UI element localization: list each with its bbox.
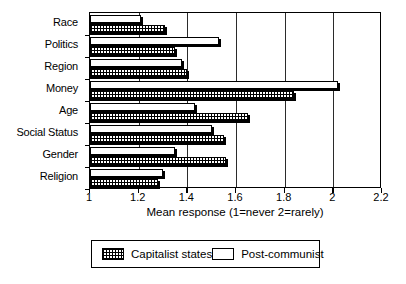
legend-item-capitalist-states: Capitalist states [102,248,212,261]
bar-group [90,123,380,145]
bar-group [90,101,380,123]
bar-group [90,57,380,79]
bar-post-communist [90,169,163,177]
x-axis-tick-label: 2.2 [373,191,388,204]
bar-post-communist [90,81,338,89]
y-axis-category-labels: RacePoliticsRegionMoneyAgeSocial StatusG… [0,12,84,188]
x-axis-tick-label: 1.8 [276,191,291,204]
bar-capitalist-states [90,25,165,33]
bar-capitalist-states [90,69,187,77]
y-axis-label-region: Region [0,61,78,72]
bar-capitalist-states [90,113,248,121]
bar-post-communist [90,59,182,67]
bar-group [90,167,380,189]
bar-chart: RacePoliticsRegionMoneyAgeSocial StatusG… [0,0,406,284]
bar-post-communist [90,15,141,23]
bar-capitalist-states [90,91,294,99]
bar-group [90,145,380,167]
legend-swatch-cross-hatch-icon [102,248,124,260]
legend-swatch-white-icon [212,248,234,260]
plot-area [89,12,381,188]
y-axis-label-gender: Gender [0,149,78,160]
x-axis-tick-label: 1.4 [179,191,194,204]
y-axis-label-race: Race [0,17,78,28]
legend-label-capitalist-states: Capitalist states [131,248,212,261]
bar-capitalist-states [90,179,158,187]
y-axis-label-age: Age [0,105,78,116]
bar-post-communist [90,103,195,111]
x-axis-tick-label: 2 [329,191,335,204]
chart-legend: Capitalist states Post-communist [91,240,320,268]
bar-group [90,13,380,35]
bar-capitalist-states [90,157,226,165]
x-axis-tick-label: 1.2 [130,191,145,204]
bar-post-communist [90,125,212,133]
bar-capitalist-states [90,47,175,55]
bar-capitalist-states [90,135,224,143]
legend-item-post-communist: Post-communist [212,248,323,261]
x-axis-tick-label: 1 [86,191,92,204]
bar-post-communist [90,37,219,45]
y-axis-label-religion: Religion [0,171,78,182]
legend-label-post-communist: Post-communist [241,248,323,261]
y-axis-label-politics: Politics [0,39,78,50]
x-axis-tick-labels: 11.21.41.61.822.2 [0,191,406,205]
y-axis-label-social-status: Social Status [0,127,78,138]
bar-post-communist [90,147,175,155]
x-axis-title: Mean response (1=never 2=rarely) [89,205,381,219]
bar-group [90,79,380,101]
y-axis-label-money: Money [0,83,78,94]
x-axis-tick-label: 1.6 [227,191,242,204]
bar-group [90,35,380,57]
